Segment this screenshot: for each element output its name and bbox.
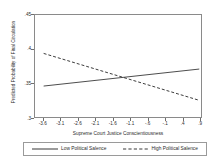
x-axis-ticks: -3.6-3.1-2.6-2.1-1.6-1.1-.6-.1.4.9 xyxy=(34,118,202,130)
x-axis-title: Supreme Court Justice Conscientiousness xyxy=(34,130,202,137)
plot-lines xyxy=(35,15,201,117)
y-tick-label: .35 xyxy=(15,81,31,86)
chart-figure: Predicted Probability of Final Circulati… xyxy=(0,0,212,161)
series-line-high-salience xyxy=(44,53,200,100)
y-tick-label: .4 xyxy=(15,46,31,51)
legend-item-high-salience: High Political Salence xyxy=(123,146,198,152)
legend-label-high-salience: High Political Salence xyxy=(152,146,198,152)
y-axis-ticks: .3.35.4.45 xyxy=(14,14,31,118)
legend-dashed-line-icon xyxy=(123,146,149,152)
x-tick-label: .9 xyxy=(189,121,211,127)
legend-item-low-salience: Low Political Salence xyxy=(32,146,106,152)
legend-label-low-salience: Low Political Salence xyxy=(61,146,106,152)
plot-area xyxy=(34,14,202,118)
series-line-low-salience xyxy=(44,69,200,86)
chart-legend: Low Political Salence High Political Sal… xyxy=(23,142,207,156)
y-tick-label: .3 xyxy=(15,116,31,121)
y-tick-label: .45 xyxy=(15,12,31,17)
legend-solid-line-icon xyxy=(32,146,58,152)
